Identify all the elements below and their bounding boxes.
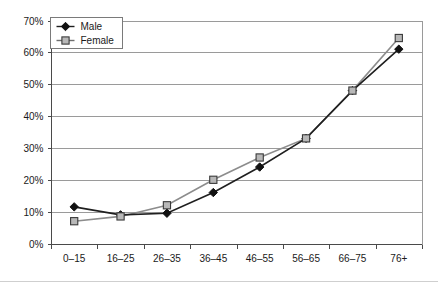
x-tick-label: 66–75	[339, 253, 367, 264]
marker-female-2	[163, 202, 170, 209]
x-tick-label: 46–55	[246, 253, 274, 264]
y-tick-label: 0%	[29, 239, 44, 250]
x-tick-label: 16–25	[107, 253, 135, 264]
x-tick-label: 36–45	[199, 253, 227, 264]
y-tick-label: 70%	[23, 16, 43, 27]
legend-marker-female	[62, 37, 69, 44]
y-tick-label: 20%	[23, 175, 43, 186]
x-tick-label: 0–15	[63, 253, 86, 264]
y-tick-label: 60%	[23, 47, 43, 58]
marker-female-3	[210, 176, 217, 183]
legend-label-male: Male	[81, 21, 103, 32]
line-chart: 0%10%20%30%40%50%60%70% 0–1516–2526–3536…	[0, 0, 438, 284]
chart-legend: MaleFemale	[51, 18, 123, 49]
marker-female-6	[349, 87, 356, 94]
y-tick-label: 30%	[23, 143, 43, 154]
legend-label-female: Female	[81, 35, 115, 46]
marker-female-5	[302, 135, 309, 142]
y-tick-label: 10%	[23, 207, 43, 218]
chart-container: 0%10%20%30%40%50%60%70% 0–1516–2526–3536…	[0, 0, 438, 284]
y-tick-label: 40%	[23, 111, 43, 122]
x-tick-label: 76+	[390, 253, 407, 264]
marker-female-4	[256, 154, 263, 161]
marker-female-0	[71, 218, 78, 225]
y-tick-label: 50%	[23, 79, 43, 90]
x-tick-label: 26–35	[153, 253, 181, 264]
marker-female-1	[117, 213, 124, 220]
x-tick-label: 56–65	[292, 253, 320, 264]
marker-female-7	[395, 34, 402, 41]
